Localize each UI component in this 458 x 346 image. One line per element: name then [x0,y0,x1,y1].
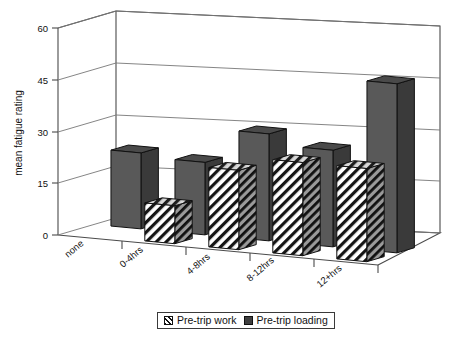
legend-item-pre-trip-work: Pre-trip work [164,315,237,326]
bar-4-8hrs-pre-trip-work [209,162,256,249]
x-tick-4-8hrs: 4-8hrs [184,251,212,277]
x-tick-8-12hrs: 8-12hrs [244,254,276,283]
chart-container: 60 45 30 15 0 mean fatigue rating none 0… [0,0,458,346]
hatch-swatch-icon [164,316,173,325]
bar-chart-3d: 60 45 30 15 0 mean fatigue rating none 0… [0,0,458,346]
x-tick-0-4hrs: 0-4hrs [117,244,145,270]
y-tick-0: 0 [43,230,48,241]
y-axis: 60 45 30 15 0 mean fatigue rating [13,23,58,241]
chart-legend: Pre-trip work Pre-trip loading [157,312,335,329]
dark-swatch-icon [244,316,253,325]
y-tick-15: 15 [37,178,48,189]
legend-item-pre-trip-loading: Pre-trip loading [244,315,328,326]
bar-12-hrs-pre-trip-work [337,161,384,262]
legend-label-pre-trip-loading: Pre-trip loading [257,315,328,326]
x-tick-12hrs: 12+hrs [314,262,344,289]
y-tick-30: 30 [37,127,48,138]
legend-label-pre-trip-work: Pre-trip work [177,315,237,326]
y-axis-title: mean fatigue rating [13,90,24,176]
y-tick-60: 60 [37,23,48,34]
bar-0-4hrs-pre-trip-work [145,198,192,244]
x-tick-none: none [62,238,85,260]
bar-8-12hrs-pre-trip-work [273,155,320,256]
y-tick-45: 45 [37,75,48,86]
